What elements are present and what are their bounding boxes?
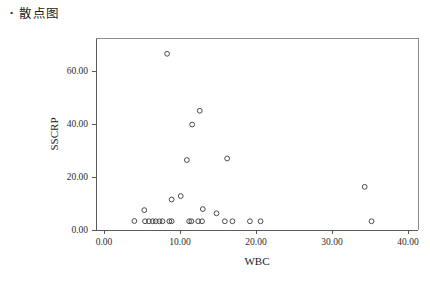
axis-lines (96, 38, 418, 230)
data-point (214, 211, 219, 216)
x-axis-ticks: 0.0010.0020.0030.0040.00 (96, 230, 419, 247)
data-point (178, 194, 183, 199)
plot-frame (96, 38, 418, 230)
x-tick-label: 10.00 (169, 237, 191, 247)
x-tick-label: 30.00 (321, 237, 343, 247)
x-tick-label: 20.00 (245, 237, 267, 247)
data-point (184, 158, 189, 163)
data-point (248, 219, 253, 224)
data-point (142, 208, 147, 213)
y-axis-title: SSCRP (48, 117, 60, 150)
x-tick-label: 40.00 (397, 237, 419, 247)
data-point (169, 197, 174, 202)
y-tick-label: 60.00 (67, 66, 89, 76)
data-point (190, 122, 195, 127)
frame-border (96, 38, 418, 230)
data-point (225, 156, 230, 161)
data-point (258, 219, 263, 224)
data-point (197, 108, 202, 113)
data-point (160, 219, 165, 224)
scatter-plot-canvas: 0.0010.0020.0030.0040.00 0.0020.0040.006… (0, 0, 430, 282)
y-tick-label: 40.00 (67, 119, 89, 129)
data-points-layer (132, 51, 374, 223)
data-point (369, 219, 374, 224)
y-tick-label: 20.00 (67, 172, 89, 182)
scatter-plot-figure: 0.0010.0020.0030.0040.00 0.0020.0040.006… (0, 0, 430, 282)
x-axis-title: WBC (244, 255, 269, 267)
data-point (165, 51, 170, 56)
x-tick-label: 0.00 (96, 237, 113, 247)
y-tick-label: 0.00 (71, 225, 88, 235)
data-point (132, 219, 137, 224)
data-point (222, 219, 227, 224)
y-axis-ticks: 0.0020.0040.0060.00 (67, 66, 96, 235)
data-point (362, 184, 367, 189)
data-point (200, 207, 205, 212)
data-point (230, 219, 235, 224)
